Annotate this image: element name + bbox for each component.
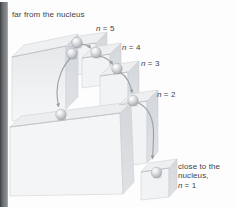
level-label-n3: n= 3 (141, 59, 160, 68)
block-lower-front-face (10, 113, 123, 196)
caption-far-from-nucleus: far from the nucleus (12, 10, 85, 19)
staircase-diagram: far from the nucleus n= 5 n= 4 n= 3 n= 2… (0, 0, 236, 207)
caption-close-line2: nucleus, (178, 171, 209, 180)
block-lower-left (10, 102, 134, 196)
ball-on-n4-step (91, 47, 102, 58)
ball-on-lower-landing (56, 109, 67, 120)
ball-on-n1-step (151, 167, 162, 178)
level-label-n4: n= 4 (122, 43, 141, 52)
ball-on-n5-step (72, 37, 83, 48)
level-label-n5: n= 5 (96, 24, 115, 33)
caption-close-line1: close to the (178, 162, 221, 171)
page-edge-stripe (0, 2, 8, 207)
textbook-figure-energy-staircase: far from the nucleus n= 5 n= 4 n= 3 n= 2… (0, 0, 236, 207)
caption-close-line3: n= 1 (178, 181, 197, 190)
level-label-n2: n= 2 (157, 90, 176, 99)
ball-before-multi-level-drop (67, 48, 78, 59)
ball-on-n2-step (128, 95, 139, 106)
ball-on-n3-step (112, 63, 123, 74)
